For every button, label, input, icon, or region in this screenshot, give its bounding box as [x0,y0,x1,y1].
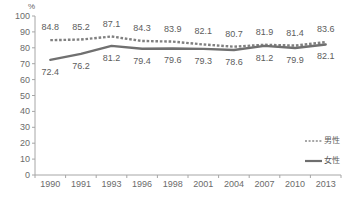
x-axis-tick-label: 2004 [224,180,244,189]
value-label: 78.6 [225,58,243,67]
value-label: 83.9 [164,25,182,34]
x-axis-tick-label: 2010 [285,180,305,189]
x-axis-tick-labels: 1990199119931996199820012004200720102013 [0,180,348,194]
x-axis-tick-label: 1990 [40,180,60,189]
series-line-male [50,37,325,47]
value-label: 79.3 [195,57,213,66]
legend-label-female: 女性 [324,157,340,165]
x-axis-tick-label: 2013 [316,180,336,189]
value-label: 80.7 [225,30,243,39]
value-label: 79.9 [286,56,304,65]
x-axis-tick-label: 1993 [101,180,121,189]
legend-label-male: 男性 [324,137,340,145]
line-chart: % 0102030405060708090100 84.885.287.184.… [0,0,348,197]
legend-item-female[interactable]: 女性 [305,157,340,165]
axis-lines [35,16,341,175]
value-label: 87.1 [103,20,121,29]
value-label: 81.2 [256,54,274,63]
value-label: 81.2 [103,54,121,63]
value-label: 76.2 [72,62,90,71]
x-axis-tick-label: 1991 [71,180,91,189]
value-label: 81.4 [286,29,304,38]
legend-swatch-dashed [305,138,322,144]
value-label: 79.4 [133,57,151,66]
value-label: 81.9 [256,28,274,37]
x-axis-tick-label: 2007 [254,180,274,189]
value-label: 84.3 [133,24,151,33]
value-label: 82.1 [195,27,213,36]
x-axis-tick-label: 2001 [193,180,213,189]
value-label: 82.1 [317,52,335,61]
value-label: 85.2 [72,23,90,32]
series-line-female [50,44,325,59]
value-label: 79.6 [164,56,182,65]
x-axis-tick-label: 1998 [163,180,183,189]
value-label: 72.4 [42,68,60,77]
value-label: 84.8 [42,23,60,32]
value-label: 83.6 [317,25,335,34]
x-axis-tick-label: 1996 [132,180,152,189]
legend-item-male[interactable]: 男性 [305,137,340,145]
series-lines [50,37,325,60]
legend-swatch-solid [305,158,322,164]
